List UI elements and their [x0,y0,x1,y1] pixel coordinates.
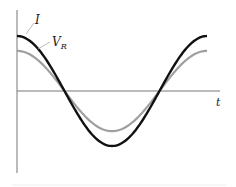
t-axis-label: t [216,96,221,109]
phase-diagram: t I VR [0,0,236,187]
voltage-label: VR [52,35,67,51]
current-leader-line [26,23,34,34]
voltage-leader-line [38,42,50,49]
voltage-label-sub: R [60,42,67,51]
current-label: I [34,13,40,27]
